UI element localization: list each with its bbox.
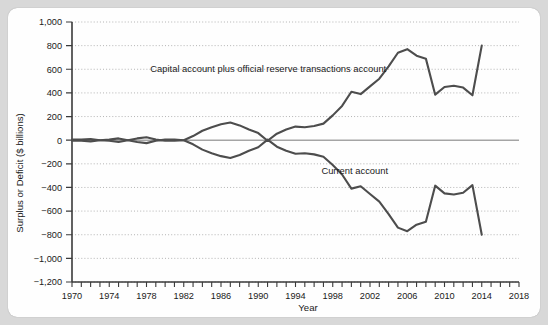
chart-card: 1,0008006004002000−200−400−600−800−1,000… (8, 8, 540, 317)
y-axis-tick-label: 800 (47, 41, 62, 51)
y-axis-tick-label: −400 (41, 183, 62, 193)
x-axis-tick-label: 1974 (99, 291, 119, 301)
x-axis-tick-label: 2006 (397, 291, 417, 301)
y-axis-tick-label: 400 (47, 88, 62, 98)
series-annotation-current-account: Current account (321, 165, 388, 176)
y-axis-title: Surplus or Deficit ($ billions) (14, 113, 25, 232)
y-axis-tick-label: 200 (47, 112, 62, 122)
y-axis-tick-label: 600 (47, 65, 62, 75)
x-axis-tick-label: 2014 (472, 291, 492, 301)
y-axis-ticks (66, 22, 72, 282)
x-axis-tick-label: 1982 (174, 291, 194, 301)
series-line-current-account (72, 138, 482, 234)
x-axis-tick-label: 2010 (434, 291, 454, 301)
x-axis-tick-label: 1998 (323, 291, 343, 301)
x-axis-tick-label: 1994 (285, 291, 305, 301)
x-axis-tick-label: 1986 (211, 291, 231, 301)
y-axis-tick-labels: 1,0008006004002000−200−400−600−800−1,000… (34, 17, 62, 287)
y-axis-tick-label: −1,200 (34, 277, 62, 287)
y-axis-tick-label: −800 (41, 230, 62, 240)
x-axis-tick-label: 1978 (136, 291, 156, 301)
x-axis-tick-label: 2018 (509, 291, 529, 301)
series-annotation-capital-account: Capital account plus official reserve tr… (150, 63, 386, 74)
x-axis-tick-labels: 1970197419781982198619901994199820022006… (62, 291, 529, 301)
series-line-capital-account (72, 46, 482, 142)
x-axis-tick-label: 2002 (360, 291, 380, 301)
y-axis-tick-label: 1,000 (39, 17, 62, 27)
x-axis-tick-label: 1990 (248, 291, 268, 301)
y-axis-tick-label: −600 (41, 206, 62, 216)
y-axis-tick-label: −1,000 (34, 254, 62, 264)
x-axis-title: Year (298, 302, 318, 313)
x-axis-tick-label: 1970 (62, 291, 82, 301)
y-axis-tick-label: −200 (41, 159, 62, 169)
y-axis-tick-label: 0 (57, 136, 62, 146)
balance-of-payments-line-chart: 1,0008006004002000−200−400−600−800−1,000… (8, 8, 540, 317)
horizontal-gridlines (72, 22, 519, 282)
